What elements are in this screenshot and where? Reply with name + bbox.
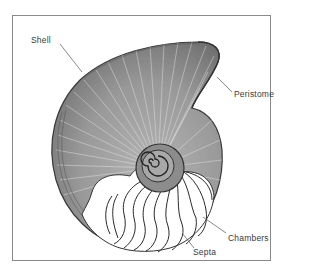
chambers-leader bbox=[203, 217, 226, 233]
label-shell: Shell bbox=[31, 35, 51, 45]
peristome-leader bbox=[217, 77, 232, 92]
spiral-coil bbox=[136, 144, 184, 192]
shell-leader bbox=[60, 44, 82, 72]
label-chambers: Chambers bbox=[228, 233, 269, 243]
label-peristome: Peristome bbox=[234, 89, 274, 99]
label-septa: Septa bbox=[193, 247, 216, 257]
